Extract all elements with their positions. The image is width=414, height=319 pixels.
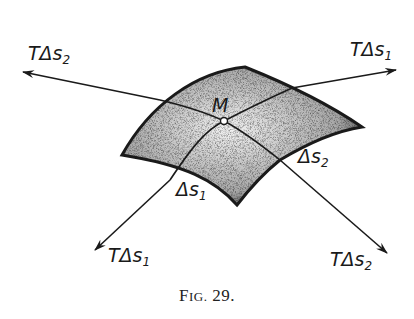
surface-diagram: M TΔs2 TΔs1 TΔs1 TΔs2 Δs2 Δs1 (0, 0, 414, 319)
tangent-arrow-s1-upper-right (292, 70, 396, 88)
point-m-label: M (212, 94, 228, 116)
point-m (221, 118, 228, 125)
caption-prefix: F (179, 286, 189, 305)
tangent-arrow-s2-upper-left (23, 72, 160, 100)
label-tangent-s2-lower-right: TΔs2 (330, 248, 372, 273)
label-arc-s2: Δs2 (296, 145, 329, 170)
label-tangent-s1-lower-left: TΔs1 (108, 244, 150, 269)
label-tangent-s1-upper-right: TΔs1 (350, 38, 392, 63)
tangent-arrow-s2-lower-right (280, 160, 387, 253)
caption-number: 29. (212, 286, 235, 305)
label-tangent-s2-upper-left: TΔs2 (28, 42, 70, 67)
surface-patch (122, 67, 362, 205)
caption-prefix-small: IG. (189, 289, 207, 304)
label-arc-s1: Δs1 (174, 178, 207, 203)
tangent-arrow-s1-lower-left (95, 180, 170, 250)
figure-caption: FIG. 29. (0, 286, 414, 306)
